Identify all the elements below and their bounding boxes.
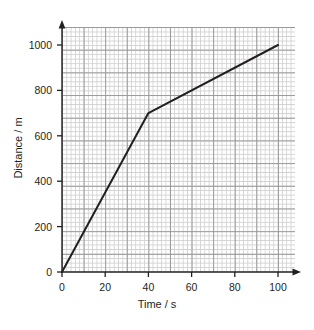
distance-time-graph: 1000 800 600 400 200 0 0 20 40 60 80 100…	[0, 0, 314, 330]
x-axis-title: Time / s	[0, 298, 314, 310]
x-axis-ticks	[62, 272, 278, 277]
y-tick-label-600: 600	[22, 130, 52, 142]
x-tick-label-80: 80	[229, 281, 241, 293]
x-tick-label-60: 60	[186, 281, 198, 293]
x-tick-label-20: 20	[99, 281, 111, 293]
y-tick-label-200: 200	[22, 221, 52, 233]
y-tick-label-800: 800	[22, 84, 52, 96]
y-tick-label-1000: 1000	[22, 39, 52, 51]
x-tick-label-0: 0	[59, 281, 65, 293]
x-tick-label-100: 100	[269, 281, 287, 293]
y-tick-label-400: 400	[22, 175, 52, 187]
y-axis-title: Distance / m	[12, 78, 24, 218]
plot-grid	[62, 27, 295, 272]
y-tick-label-0: 0	[22, 266, 52, 278]
x-tick-label-40: 40	[143, 281, 155, 293]
